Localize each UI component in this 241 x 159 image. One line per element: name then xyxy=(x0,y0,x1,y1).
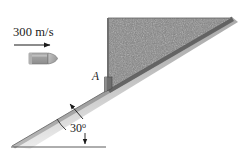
physics-diagram-figure: 300 m/s A 30o xyxy=(0,0,241,159)
angle-value: 30 xyxy=(70,121,82,135)
bullet-projectile xyxy=(29,53,58,64)
point-a-label: A xyxy=(92,71,99,83)
degree-symbol: o xyxy=(82,121,86,130)
velocity-label: 300 m/s xyxy=(13,26,54,39)
bullet-base-band xyxy=(29,53,32,64)
wall-mass xyxy=(107,18,234,93)
bullet-tip xyxy=(48,53,58,64)
block-highlight xyxy=(105,77,107,92)
bullet-highlight xyxy=(32,55,47,57)
angle-label: 30o xyxy=(70,121,86,134)
diagram-canvas xyxy=(0,0,241,159)
